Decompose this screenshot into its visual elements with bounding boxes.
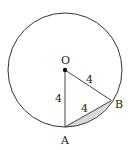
center-point-O (63, 68, 67, 72)
label-A: A (60, 134, 70, 147)
length-label-AB: 4 (81, 102, 88, 115)
label-B: B (115, 98, 123, 111)
segment-AB (65, 101, 112, 128)
label-O: O (61, 54, 70, 67)
length-label-OB: 4 (86, 73, 93, 86)
circle-diagram: O A B 4 4 4 (0, 0, 133, 150)
length-label-OA: 4 (55, 92, 62, 105)
